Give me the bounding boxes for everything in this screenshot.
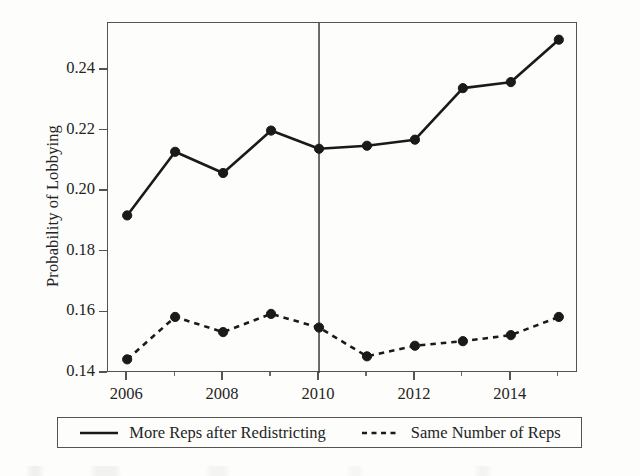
y-axis-tick (99, 129, 107, 130)
x-axis-tick (317, 372, 318, 380)
legend-item-same-reps: Same Number of Reps (360, 423, 561, 443)
data-point (266, 126, 275, 135)
data-point (458, 337, 467, 346)
x-axis-tick-label: 2012 (379, 384, 449, 404)
y-axis-tick-label: 0.20 (37, 179, 95, 199)
page-edge-artifact (0, 466, 640, 476)
y-axis-tick (99, 189, 107, 190)
figure-container: Probability of Lobbying 0.140.160.180.20… (0, 0, 640, 476)
y-axis-tick-label: 0.18 (37, 240, 95, 260)
y-axis-tick-label: 0.22 (37, 119, 95, 139)
x-axis-tick-label: 2006 (91, 384, 161, 404)
data-point (506, 77, 515, 86)
y-axis-tick (99, 250, 107, 251)
data-point (314, 144, 323, 153)
data-point (506, 331, 515, 340)
legend-label-same-reps: Same Number of Reps (411, 423, 561, 443)
data-point (410, 135, 419, 144)
x-axis-tick-label: 2008 (187, 384, 257, 404)
y-axis-tick-label: 0.14 (37, 361, 95, 381)
x-axis-tick (221, 372, 222, 380)
data-point (171, 312, 180, 321)
legend-item-more-reps: More Reps after Redistricting (78, 423, 326, 443)
x-axis-tick (509, 372, 510, 380)
y-axis-tick (99, 371, 107, 372)
y-axis-tick (99, 68, 107, 69)
data-point (554, 35, 563, 44)
plot-svg (108, 23, 578, 373)
data-point (362, 141, 371, 150)
x-axis-tick-label: 2014 (475, 384, 545, 404)
dashed-line-key-icon (360, 427, 402, 439)
plot-area (107, 22, 577, 372)
legend-label-more-reps: More Reps after Redistricting (129, 423, 326, 443)
data-point (458, 84, 467, 93)
data-point (554, 312, 563, 321)
data-point (123, 355, 132, 364)
data-point (219, 327, 228, 336)
data-point (266, 309, 275, 318)
chart-legend: More Reps after Redistricting Same Numbe… (57, 417, 582, 448)
data-point (314, 323, 323, 332)
series-line-1 (127, 314, 559, 359)
solid-line-key-icon (78, 427, 120, 439)
y-axis-tick-label: 0.24 (37, 58, 95, 78)
y-axis-tick (99, 311, 107, 312)
data-point (171, 147, 180, 156)
series-line-0 (127, 40, 559, 216)
data-point (362, 352, 371, 361)
data-point (410, 341, 419, 350)
x-axis-tick (413, 372, 414, 380)
x-axis-tick-label: 2010 (283, 384, 353, 404)
x-axis-tick (125, 372, 126, 380)
data-point (219, 168, 228, 177)
y-axis-tick-label: 0.16 (37, 300, 95, 320)
data-point (123, 211, 132, 220)
